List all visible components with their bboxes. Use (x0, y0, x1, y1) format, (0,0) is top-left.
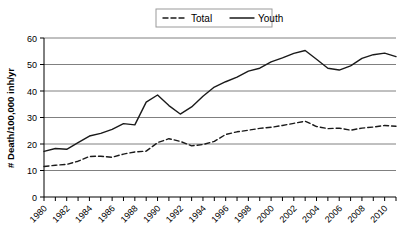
legend: TotalYouth (156, 9, 283, 27)
y-axis-title-text: # Death/100,000 inh/yr (5, 68, 16, 168)
line-chart: 0102030405060 19801982198419861988199019… (0, 0, 411, 242)
legend-label-total: Total (191, 13, 212, 24)
y-tick-label: 20 (27, 140, 37, 150)
legend-label-youth: Youth (258, 13, 283, 24)
chart-container: 0102030405060 19801982198419861988199019… (0, 0, 411, 242)
y-tick-label: 50 (27, 60, 37, 70)
y-tick-label: 0 (32, 193, 37, 203)
y-tick-label: 10 (27, 166, 37, 176)
y-axis-title: # Death/100,000 inh/yr (5, 68, 16, 168)
y-tick-label: 60 (27, 34, 37, 44)
y-tick-label: 40 (27, 87, 37, 97)
y-tick-label: 30 (27, 113, 37, 123)
